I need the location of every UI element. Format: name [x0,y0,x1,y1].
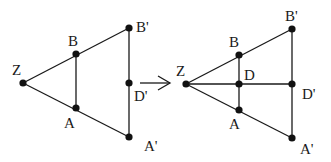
right-point-d [235,80,242,87]
left-figure: ZBAB'D'A' [12,19,158,154]
left-label-z: Z [12,62,21,78]
left-point-z [19,79,26,86]
left-point-a2 [125,133,132,140]
right-point-a [235,106,242,113]
right-label-a: A [229,116,240,132]
left-label-d2: D' [134,88,148,104]
right-label-a2: A' [300,141,314,157]
right-point-b [235,51,242,58]
left-point-d2 [125,79,132,86]
right-figure: ZBDAB'D'A' [176,8,316,157]
left-point-b [72,50,79,57]
left-label-a2: A' [144,138,158,154]
right-point-d2 [288,80,295,87]
right-point-b2 [288,25,295,32]
left-label-b2: B' [136,19,149,35]
right-label-d: D [244,67,255,83]
right-point-a2 [288,134,295,141]
left-point-a [72,104,79,111]
left-point-b2 [125,24,132,31]
diagram-canvas: ZBAB'D'A' ZBDAB'D'A' [0,0,331,162]
right-label-b: B [229,34,239,50]
right-label-d2: D' [302,86,316,102]
right-label-z: Z [176,63,185,79]
right-point-z [182,80,189,87]
left-label-b: B [68,33,78,49]
left-label-a: A [64,115,75,131]
right-label-b2: B' [285,8,298,24]
